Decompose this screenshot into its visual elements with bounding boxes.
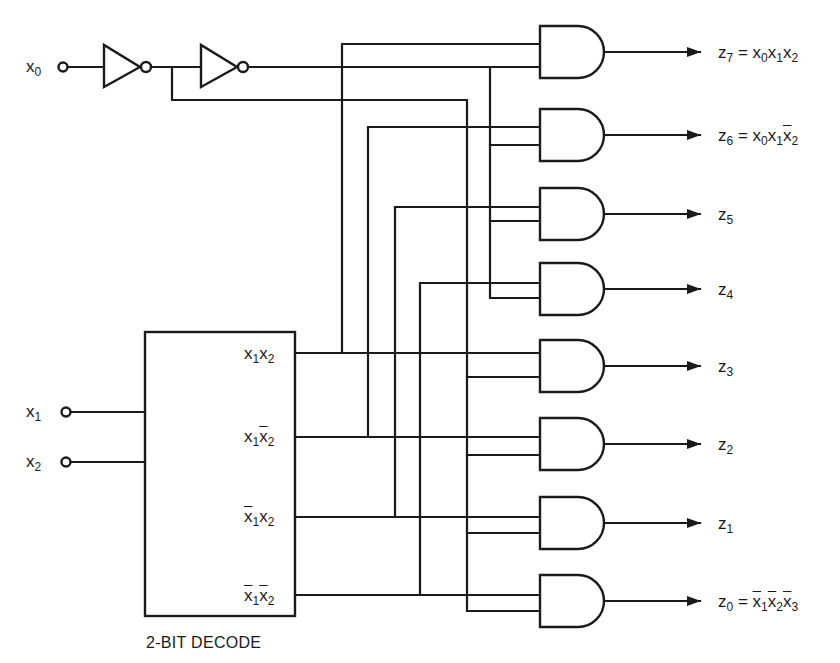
output-z6-label: z6 = x0x1x2 xyxy=(718,127,798,144)
output-z0-label: z0 = x1x2x3 xyxy=(718,593,798,610)
output-z1-label: z1 xyxy=(718,515,733,532)
decoder-output-buses xyxy=(295,44,540,595)
output-z5-label: z5 xyxy=(718,206,733,223)
decoder-output-x1barx2bar: x1x2 xyxy=(244,587,274,604)
inverter-1-icon xyxy=(104,45,140,87)
decoder-output-x1x2: x1x2 xyxy=(244,345,274,362)
decoder-output-x1barx2: x1x2 xyxy=(244,508,274,525)
and-gate-z7-icon xyxy=(540,26,700,78)
x2-terminal-icon xyxy=(62,458,71,467)
and-gate-z3-icon xyxy=(540,340,700,392)
inverter-2-icon xyxy=(201,45,237,87)
decoder-circuit-diagram: x0 x1 x2 x1x2 x1x2 x1x2 x1x2 2-BIT DECOD… xyxy=(0,0,840,663)
x0-input-chain xyxy=(59,45,541,611)
and-gate-z0-icon xyxy=(540,575,700,627)
output-z4-label: z4 xyxy=(718,281,733,298)
and-gate-z2-icon xyxy=(540,418,700,470)
x0-label: x0 xyxy=(26,58,41,75)
and-gate-z4-icon xyxy=(540,263,700,315)
inverter-2-bubble-icon xyxy=(238,62,248,72)
x0-terminal-icon xyxy=(59,63,68,72)
and-gate-z6-icon xyxy=(540,109,700,161)
x1-terminal-icon xyxy=(62,408,71,417)
output-z3-label: z3 xyxy=(718,358,733,375)
decoder-caption: 2-BIT DECODE xyxy=(146,634,261,652)
and-gate-z5-icon xyxy=(540,188,700,240)
x2-label: x2 xyxy=(26,453,41,470)
circuit-wiring xyxy=(0,0,840,663)
x1-label: x1 xyxy=(26,403,41,420)
output-z2-label: z2 xyxy=(718,436,733,453)
decoder-output-x1x2bar: x1x2 xyxy=(244,428,274,445)
two-bit-decoder-box xyxy=(145,332,295,616)
and-gate-z1-icon xyxy=(540,497,700,549)
output-z7-label: z7 = x0x1x2 xyxy=(718,44,798,61)
and-gates xyxy=(540,26,700,627)
inverter-1-bubble-icon xyxy=(141,62,151,72)
